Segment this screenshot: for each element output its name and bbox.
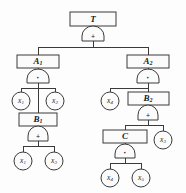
gate-a2-and-operator: · xyxy=(147,73,150,83)
gate-b1-or-operator: + xyxy=(36,133,40,140)
event-b2-right[interactable]: x3 xyxy=(154,131,172,149)
node-b2-sub: 2 xyxy=(149,97,153,103)
node-b1-sub: 1 xyxy=(40,118,43,124)
gate-a1-and-operator: · xyxy=(37,73,40,83)
svg-text:T: T xyxy=(90,14,96,24)
node-b2-label: B xyxy=(142,93,149,103)
node-a1-sub: 1 xyxy=(40,60,43,66)
event-c-right[interactable]: x5 xyxy=(132,169,150,187)
event-a1-left-sub: 1 xyxy=(21,100,24,105)
event-a1-left[interactable]: x1 xyxy=(12,92,30,110)
event-b1-right[interactable]: x3 xyxy=(45,152,63,170)
gate-top-or-operator: + xyxy=(91,33,95,40)
gate-c-and[interactable]: · xyxy=(115,144,135,158)
node-a2[interactable]: A2 xyxy=(127,55,169,68)
node-a2-sub: 2 xyxy=(149,60,153,66)
gate-top-or[interactable]: + xyxy=(82,26,104,41)
node-a1[interactable]: A1 xyxy=(17,55,59,68)
event-b1-left-sub: 1 xyxy=(23,160,26,165)
node-a2-label: A xyxy=(142,56,149,66)
gate-a1-and[interactable]: · xyxy=(27,69,49,83)
node-c-label: C xyxy=(122,131,129,141)
event-a2-left[interactable]: x4 xyxy=(101,92,119,110)
node-b2[interactable]: B2 xyxy=(128,92,169,105)
node-b1-label: B xyxy=(32,114,39,124)
gate-b2-or-operator: + xyxy=(146,112,150,119)
node-a1-label: A xyxy=(32,56,39,66)
gate-c-and-operator: · xyxy=(124,148,127,158)
event-c-left[interactable]: x4 xyxy=(101,169,119,187)
node-c[interactable]: C xyxy=(103,130,147,143)
node-top[interactable]: T xyxy=(70,12,116,26)
node-top-label: T xyxy=(90,14,96,24)
event-b1-left[interactable]: x1 xyxy=(14,152,32,170)
gate-b2-or[interactable]: + xyxy=(138,105,158,120)
gate-b1-or[interactable]: + xyxy=(28,126,48,141)
gate-a2-and[interactable]: · xyxy=(137,69,159,83)
fault-tree-diagram: T + A1 · x1 xyxy=(0,0,186,193)
node-b1[interactable]: B1 xyxy=(19,113,57,126)
svg-text:C: C xyxy=(122,131,129,141)
event-a1-right[interactable]: x2 xyxy=(46,92,64,110)
